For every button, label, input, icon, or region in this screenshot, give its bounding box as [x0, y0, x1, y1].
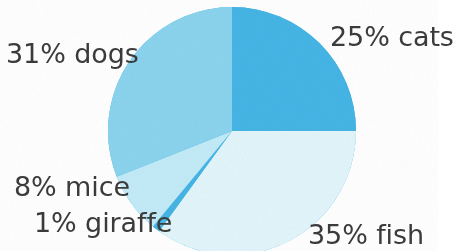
slice-label-fish: 35% fish: [308, 221, 424, 249]
slice-label-dogs: 31% dogs: [6, 40, 139, 68]
slice-label-mice: 8% mice: [14, 173, 130, 201]
slice-label-giraffe: 1% giraffe: [34, 209, 172, 237]
slice-label-cats: 25% cats: [330, 23, 454, 51]
